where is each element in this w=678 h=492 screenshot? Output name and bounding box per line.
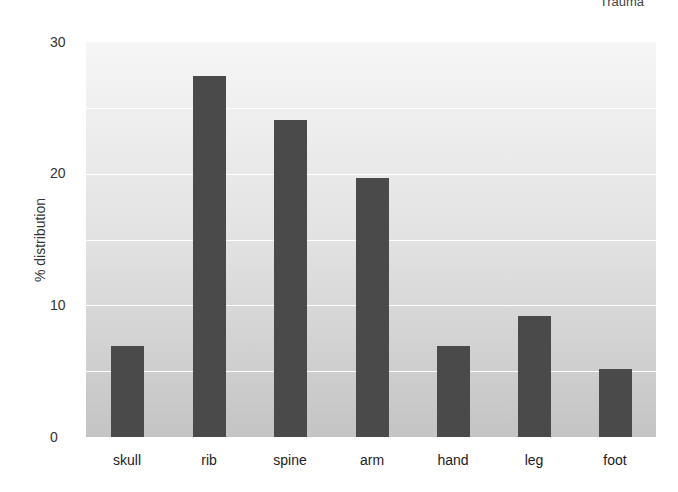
bar-spine <box>274 120 307 437</box>
bar-rib <box>193 76 226 437</box>
bar-arm <box>356 178 389 437</box>
bar-hand <box>437 346 470 437</box>
y-tick-20: 20 <box>50 165 80 181</box>
y-tick-30: 30 <box>50 34 80 50</box>
x-tick-spine: spine <box>273 452 306 468</box>
y-tick-10: 10 <box>50 297 80 313</box>
x-tick-skull: skull <box>113 452 141 468</box>
corner-label: Trauma <box>600 0 644 9</box>
y-axis-label: % distribution <box>32 198 48 282</box>
x-tick-foot: foot <box>603 452 626 468</box>
x-tick-leg: leg <box>525 452 544 468</box>
bar-leg <box>518 316 551 437</box>
y-tick-0: 0 <box>50 429 80 445</box>
bar-foot <box>599 369 632 437</box>
x-tick-arm: arm <box>360 452 384 468</box>
gridline <box>86 174 656 175</box>
x-tick-rib: rib <box>201 452 217 468</box>
x-tick-hand: hand <box>437 452 468 468</box>
gridline <box>86 108 656 109</box>
plot-area <box>86 42 656 437</box>
bar-skull <box>111 346 144 437</box>
